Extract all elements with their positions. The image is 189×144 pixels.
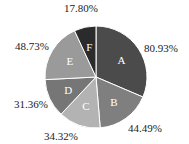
percent-label-b: 44.49%: [128, 122, 162, 134]
pie-slices: [45, 26, 147, 128]
percent-label-d: 31.36%: [14, 98, 48, 110]
percent-label-f: 17.80%: [64, 2, 98, 14]
slice-label-e: E: [66, 55, 73, 67]
percent-label-e: 48.73%: [15, 40, 49, 52]
slice-label-c: C: [82, 100, 89, 112]
percent-label-a: 80.93%: [144, 42, 178, 54]
slice-label-f: F: [86, 41, 92, 53]
percent-label-c: 34.32%: [44, 130, 78, 142]
slice-label-a: A: [118, 54, 126, 66]
pie-chart: ABCDEF 80.93%44.49%34.32%31.36%48.73%17.…: [0, 0, 189, 144]
slice-label-b: B: [110, 96, 117, 108]
slice-label-d: D: [64, 84, 72, 96]
